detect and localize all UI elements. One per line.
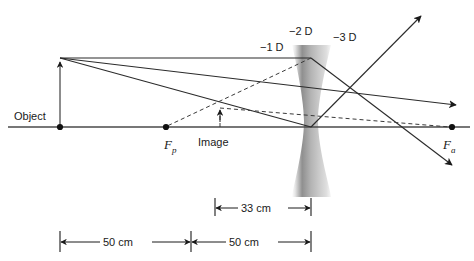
focal-label-fp: F p [163, 137, 177, 155]
power-label-minus1d: −1 D [260, 41, 284, 53]
parallel-ray-virtual-extension [163, 58, 311, 128]
dimension-50cm-right-label: 50 cm [229, 236, 259, 248]
dimension-50cm-right: 50 cm [192, 231, 311, 252]
diagram-canvas: −1 D −2 D −3 D Object Image F p F a 33 c… [0, 0, 474, 261]
optics-ray-diagram: −1 D −2 D −3 D Object Image F p F a 33 c… [0, 0, 474, 261]
ray-bundle-solid [60, 16, 456, 165]
focal-label-fp-subscript: p [171, 145, 177, 155]
power-label-minus3d: −3 D [333, 31, 357, 43]
object-label: Object [14, 110, 46, 122]
focal-point-fp-dot [163, 124, 169, 130]
dimension-50cm-left-label: 50 cm [103, 236, 133, 248]
dimension-33cm-label: 33 cm [241, 202, 271, 214]
object-base-point [57, 124, 63, 130]
focal-ray-incident [60, 58, 311, 127]
diverging-lens [292, 45, 331, 197]
center-ray [60, 58, 456, 105]
focal-point-fa-dot [449, 124, 455, 130]
image-label: Image [198, 136, 229, 148]
focal-label-fa: F a [442, 137, 456, 155]
focal-ray-refracted [311, 16, 421, 127]
focal-label-fa-subscript: a [451, 145, 456, 155]
dimension-50cm-left: 50 cm [60, 231, 191, 252]
power-label-minus2d: −2 D [289, 25, 313, 37]
virtual-image-ray [220, 108, 450, 127]
parallel-ray-diverged [311, 58, 452, 165]
dimension-33cm: 33 cm [215, 198, 311, 216]
